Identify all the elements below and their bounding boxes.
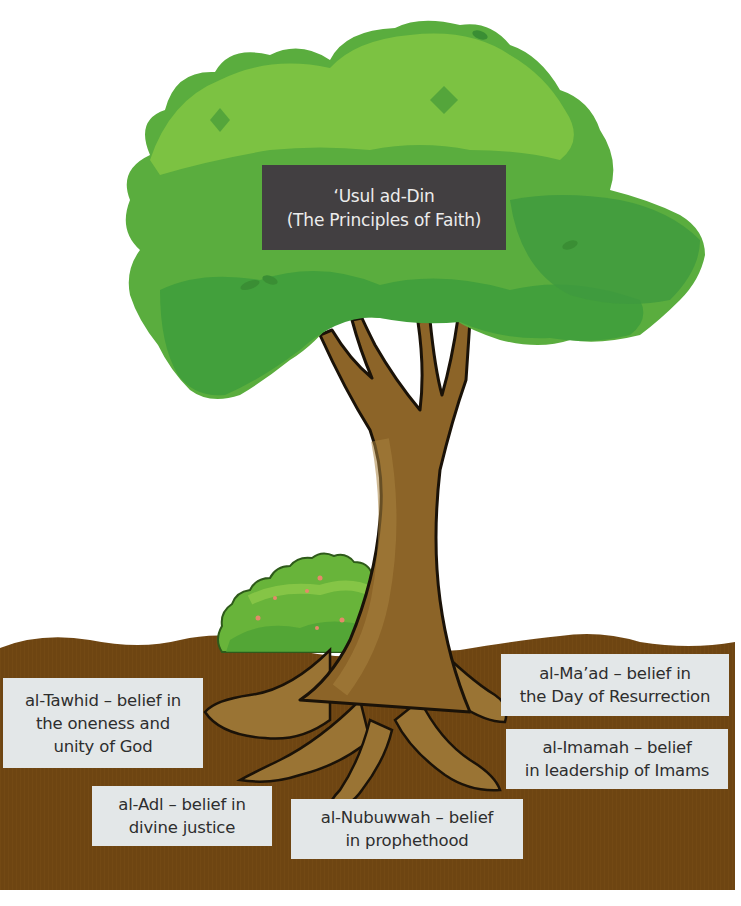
label-nubuwwah: al-Nubuwwah – belief in prophethood (291, 799, 523, 859)
label-adl-line-2: divine justice (129, 816, 235, 839)
label-adl-line-1: al-Adl – belief in (118, 793, 246, 816)
label-tawhid: al-Tawhid – belief in the oneness and un… (3, 678, 203, 768)
label-adl: al-Adl – belief in divine justice (92, 786, 272, 846)
title-line-2: (The Principles of Faith) (287, 208, 482, 232)
label-maad: al-Ma’ad – belief in the Day of Resurrec… (501, 654, 729, 716)
label-imamah-line-1: al-Imamah – belief (542, 736, 691, 759)
title-line-1: ‘Usul ad-Din (333, 184, 434, 208)
label-nubuwwah-line-1: al-Nubuwwah – belief (321, 806, 493, 829)
label-nubuwwah-line-2: in prophethood (345, 829, 468, 852)
label-imamah: al-Imamah – belief in leadership of Imam… (506, 729, 728, 789)
label-maad-line-2: the Day of Resurrection (520, 685, 710, 708)
label-tawhid-line-2: the oneness and (36, 712, 170, 735)
label-imamah-line-2: in leadership of Imams (525, 759, 709, 782)
label-tawhid-line-3: unity of God (53, 735, 152, 758)
label-maad-line-1: al-Ma’ad – belief in (539, 662, 691, 685)
title-box: ‘Usul ad-Din (The Principles of Faith) (262, 165, 506, 250)
label-tawhid-line-1: al-Tawhid – belief in (25, 689, 181, 712)
